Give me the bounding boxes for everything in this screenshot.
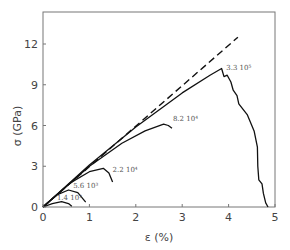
curve-label: 2.2 10⁴ bbox=[113, 166, 138, 174]
x-tick-label: 2 bbox=[132, 211, 139, 224]
curve-labels: 1.4 10³5.6 10³2.2 10⁴8.2 10⁴3.3 10⁵ bbox=[57, 64, 252, 202]
x-tick-label: 0 bbox=[40, 211, 47, 224]
y-tick-label: 0 bbox=[31, 201, 38, 214]
y-tick-label: 3 bbox=[31, 160, 38, 173]
curve-label: 3.3 10⁵ bbox=[226, 64, 251, 72]
x-axis-title: ε (%) bbox=[145, 231, 173, 244]
y-tick-label: 6 bbox=[31, 120, 38, 133]
y-axis-title: σ (GPa) bbox=[11, 106, 24, 146]
x-tick-label: 4 bbox=[225, 211, 232, 224]
x-tick-label: 1 bbox=[86, 211, 93, 224]
curve-label: 1.4 10³ bbox=[57, 194, 82, 202]
x-tick-label: 5 bbox=[272, 211, 279, 224]
curve-label: 8.2 10⁴ bbox=[173, 115, 198, 123]
curve-label: 5.6 10³ bbox=[73, 182, 98, 190]
stress-strain-chart: 1.4 10³5.6 10³2.2 10⁴8.2 10⁴3.3 10⁵ 0123… bbox=[0, 0, 290, 250]
y-tick-label: 9 bbox=[31, 79, 38, 92]
x-tick-label: 3 bbox=[179, 211, 186, 224]
y-tick-label: 12 bbox=[24, 38, 38, 51]
